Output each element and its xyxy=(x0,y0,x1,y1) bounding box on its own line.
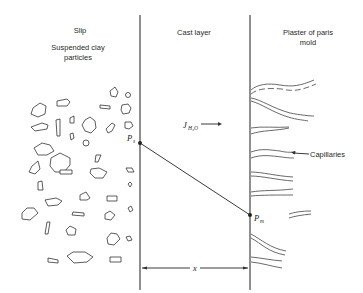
svg-text:P: P xyxy=(126,133,132,143)
mold-capillaries xyxy=(251,80,316,268)
slip-label-group: Slip Suspended clay particles xyxy=(51,26,105,62)
slip-pressure-label: P s xyxy=(126,133,135,144)
mold-pressure-point xyxy=(248,213,252,217)
slip-subtitle-line1: Suspended clay xyxy=(51,43,105,52)
svg-text:P: P xyxy=(253,213,259,223)
mold-title-line2: mold xyxy=(300,38,316,47)
mold-label-group: Plaster of paris mold xyxy=(283,28,333,47)
water-flux-label: J H₂O xyxy=(183,120,198,131)
mold-title-line1: Plaster of paris xyxy=(283,28,333,37)
slip-casting-diagram: Slip Suspended clay particles Cast layer… xyxy=(0,0,363,293)
svg-text:m: m xyxy=(260,218,264,224)
svg-text:H₂O: H₂O xyxy=(187,125,198,131)
slip-pressure-point xyxy=(138,141,142,145)
cast-layer-title: Cast layer xyxy=(177,28,211,37)
thickness-dimension: x xyxy=(142,263,248,273)
pressure-gradient-line xyxy=(140,143,250,215)
clay-particles xyxy=(22,87,134,263)
capillaries-label: Capillaries xyxy=(310,150,345,159)
capillaries-callout: Capillaries xyxy=(291,150,345,159)
slip-subtitle-line2: particles xyxy=(64,53,92,62)
thickness-label: x xyxy=(192,263,197,273)
svg-text:s: s xyxy=(133,138,135,144)
flux-arrow-icon xyxy=(201,122,222,126)
mold-pressure-label: P m xyxy=(253,213,264,224)
slip-title: Slip xyxy=(74,26,87,35)
